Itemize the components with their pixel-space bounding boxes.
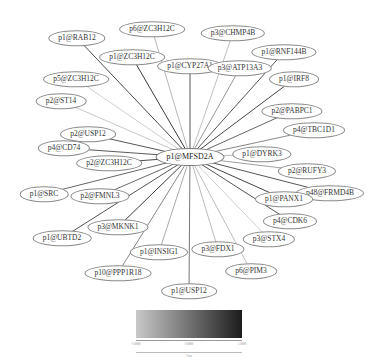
graph-node[interactable]: p3@FDX1 xyxy=(191,241,244,257)
tick-min: -1.0000 xyxy=(131,342,140,346)
color-bar-ticks: -1.0000 0.0000 1.0000 xyxy=(136,340,242,351)
graph-node[interactable]: p1@RNF144B xyxy=(251,44,316,60)
hub-node[interactable]: p1@MFSD2A xyxy=(156,148,225,166)
graph-node[interactable]: p3@ATP13A3 xyxy=(208,60,272,76)
edge xyxy=(189,157,190,291)
graph-node[interactable]: p10@PPP1R18 xyxy=(85,265,152,281)
graph-node[interactable]: p2@ZC3H12C xyxy=(76,155,142,171)
color-legend: -1.0000 0.0000 1.0000 Corr xyxy=(136,310,242,358)
graph-node[interactable]: p1@UBTD2 xyxy=(33,230,92,246)
graph-node[interactable]: p2@ST14 xyxy=(36,93,87,109)
graph-node[interactable]: p1@RAB12 xyxy=(48,30,105,46)
graph-node[interactable]: p4@CDK6 xyxy=(263,213,317,229)
graph-node[interactable]: p2@RUFY3 xyxy=(278,163,336,179)
graph-node[interactable]: p1@IRF8 xyxy=(269,71,319,87)
graph-node[interactable]: p3@MKNK1 xyxy=(87,219,148,235)
edge xyxy=(152,29,190,157)
legend-title: Corr xyxy=(136,352,242,358)
graph-node[interactable]: p3@STX4 xyxy=(243,231,295,247)
graph-node[interactable]: p2@FMNL3 xyxy=(71,188,130,204)
graph-node[interactable]: p1@ZC3H12C xyxy=(99,49,165,65)
edge xyxy=(190,68,240,157)
edge xyxy=(190,33,233,157)
graph-node[interactable]: p1@INSIG1 xyxy=(130,244,188,260)
graph-node[interactable]: p1@USP12 xyxy=(161,283,217,299)
graph-node[interactable]: p4@TBC1D1 xyxy=(283,122,345,138)
color-bar xyxy=(136,310,242,338)
graph-node[interactable]: p1@PANX1 xyxy=(255,191,313,207)
edge xyxy=(190,157,290,221)
graph-node[interactable]: p5@ZC3H12C xyxy=(43,71,109,87)
tick-mid: 0.0000 xyxy=(185,342,193,346)
edge xyxy=(76,79,190,157)
edge xyxy=(159,157,190,252)
graph-node[interactable]: p1@SRC xyxy=(20,186,69,202)
graph-node[interactable]: p1@DYRK3 xyxy=(232,146,291,162)
graph-node[interactable]: p6@ZC3H12C xyxy=(119,21,185,37)
graph-node[interactable]: p6@PIM3 xyxy=(225,263,277,279)
graph-node[interactable]: p4@CD74 xyxy=(38,140,90,156)
tick-max: 1.0000 xyxy=(238,342,246,346)
graph-node[interactable]: p3@CHMP4B xyxy=(201,25,265,41)
edge xyxy=(190,157,218,249)
graph-node[interactable]: p2@PABPC1 xyxy=(261,103,322,119)
